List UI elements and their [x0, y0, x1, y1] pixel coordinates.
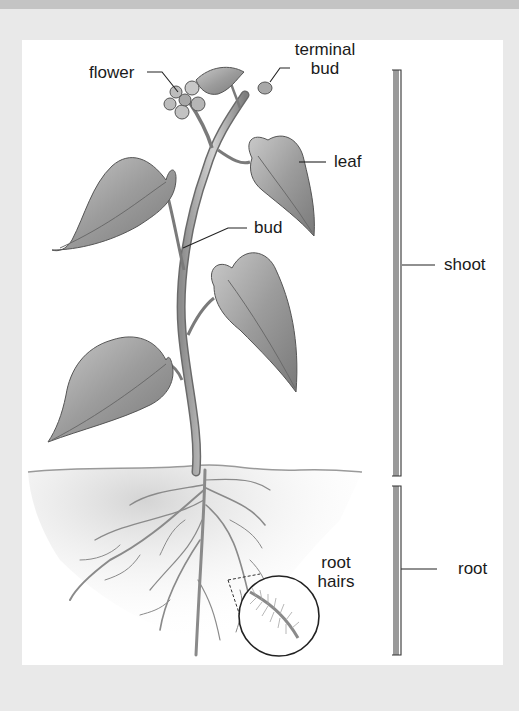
label-root: root: [458, 560, 487, 578]
terminal-bud-illustration: [258, 82, 272, 94]
label-bud: bud: [254, 219, 282, 237]
label-flower: flower: [89, 64, 134, 82]
label-terminal-bud-line1: terminal: [293, 41, 357, 59]
label-shoot: shoot: [444, 256, 486, 274]
plant-illustration: [0, 0, 519, 711]
flower-illustration: [164, 81, 205, 119]
label-root-hairs-line2: hairs: [314, 573, 358, 591]
terminal-bud-leader: [270, 68, 290, 82]
root-bracket: [392, 486, 401, 655]
shoot-bracket: [392, 70, 401, 476]
label-leaf: leaf: [334, 153, 361, 171]
label-root-hairs-line1: root: [314, 554, 358, 572]
label-terminal-bud-line2: bud: [293, 60, 357, 78]
